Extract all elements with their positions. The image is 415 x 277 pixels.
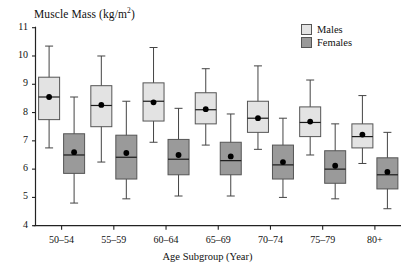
box-females-75–79: [325, 124, 346, 199]
x-tick-label: 70–74: [240, 234, 300, 245]
box-males-50–54: [39, 46, 60, 148]
box-females-70–74: [272, 118, 293, 197]
mean-marker: [203, 106, 209, 112]
y-tick-label: 11: [12, 21, 28, 32]
y-tick-label: 6: [12, 162, 28, 173]
x-tick-label: 75–79: [293, 234, 353, 245]
x-axis-title: Age Subgroup (Year): [0, 251, 415, 262]
legend-label-males: Males: [317, 23, 343, 36]
mean-marker: [98, 102, 104, 108]
y-tick-label: 4: [12, 219, 28, 230]
x-tick-label: 60–64: [136, 234, 196, 245]
box-males-75–79: [300, 80, 321, 155]
mean-marker: [176, 152, 182, 158]
legend-swatch-females-icon: [301, 37, 312, 48]
x-tick-label: 80+: [345, 234, 405, 245]
box-females-80+: [377, 132, 398, 208]
mean-marker: [280, 159, 286, 165]
mean-marker: [228, 154, 234, 160]
y-tick-label: 10: [12, 49, 28, 60]
legend-label-females: Females: [317, 36, 352, 49]
legend-item-females: Females: [301, 36, 352, 49]
x-tick-label: 50–54: [32, 234, 92, 245]
mean-marker: [307, 119, 313, 125]
legend-item-males: Males: [301, 23, 352, 36]
box-females-60–64: [168, 108, 189, 196]
legend-swatch-males-icon: [301, 24, 312, 35]
box-males-80+: [352, 96, 373, 164]
box-males-60–64: [143, 48, 164, 143]
chart-figure: Muscle Mass (kg/m2) 4567891011 50–5455–5…: [0, 0, 415, 277]
mean-marker: [384, 169, 390, 175]
box-males-70–74: [247, 66, 268, 149]
mean-marker: [151, 99, 157, 105]
mean-marker: [359, 132, 365, 138]
box-females-50–54: [64, 97, 85, 203]
mean-marker: [46, 94, 52, 100]
chart-legend: Males Females: [301, 23, 352, 49]
mean-marker: [255, 115, 261, 121]
box-males-65–69: [195, 69, 216, 145]
y-tick-label: 9: [12, 77, 28, 88]
box-females-65–69: [220, 114, 241, 196]
y-tick-label: 5: [12, 190, 28, 201]
box-males-55–59: [91, 56, 112, 162]
x-tick-label: 55–59: [84, 234, 144, 245]
x-tick-label: 65–69: [188, 234, 248, 245]
mean-marker: [332, 163, 338, 169]
y-tick-label: 8: [12, 106, 28, 117]
mean-marker: [123, 150, 129, 156]
y-tick-label: 7: [12, 134, 28, 145]
box-females-55–59: [116, 101, 137, 199]
mean-marker: [71, 149, 77, 155]
